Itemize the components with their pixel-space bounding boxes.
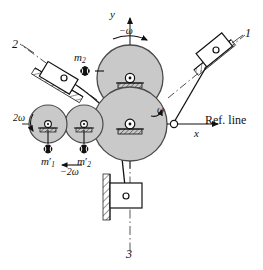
mass-m2-sub: 2 [82, 56, 86, 65]
pin-joint-3 [123, 193, 129, 199]
mass-m2-prime-base: m [77, 155, 85, 167]
guideway-3 [103, 174, 110, 220]
axis-label-x: x [194, 128, 199, 139]
mass-m1-prime-label: m′1 [41, 156, 55, 169]
mass-m2-prime-sub: 2 [87, 160, 91, 169]
pin-joint-2 [61, 75, 67, 81]
ref-line-label: Ref. line [205, 114, 246, 126]
lower-disc-ground [116, 129, 144, 134]
cylinder-1-label: 1 [245, 27, 251, 39]
cylinder-3-label: 3 [126, 248, 132, 260]
two-omega-label: 2ω [13, 113, 25, 123]
pin-joint-1 [213, 47, 219, 53]
mechanism-figure [0, 0, 263, 270]
mass-m1-prime-sub: 1 [51, 160, 55, 169]
mass-m2-prime-label: m′2 [77, 156, 91, 169]
mass-m2-base: m [74, 51, 82, 63]
negative-two-omega-label: −2ω [60, 167, 79, 177]
cylinder-2-label: 2 [12, 38, 18, 50]
lower-main-disc [93, 87, 167, 161]
crank-pin [170, 120, 177, 127]
negative-omega-label: −ω [119, 26, 133, 36]
mass-m2-label: m2 [74, 52, 86, 65]
mass-m1-prime-base: m [41, 155, 49, 167]
axis-label-y: y [110, 9, 115, 20]
omega-crank-label: ω [157, 105, 164, 115]
